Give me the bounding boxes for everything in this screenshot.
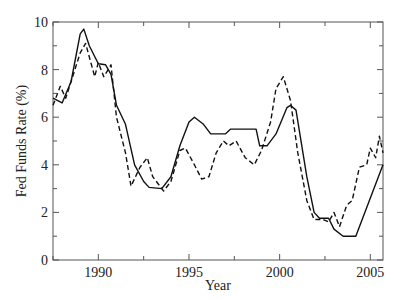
y-axis-title: Fed Funds Rate (%) xyxy=(14,84,30,197)
axis-tick-labels: 19901995200020050246810 xyxy=(34,15,384,280)
plot-frame xyxy=(53,22,383,260)
x-tick-label: 2000 xyxy=(266,265,294,280)
x-tick-label: 2005 xyxy=(356,265,384,280)
axis-ticks xyxy=(53,22,383,260)
series-layer xyxy=(53,29,383,236)
y-tick-label: 8 xyxy=(41,63,48,78)
x-tick-label: 1995 xyxy=(175,265,203,280)
series-line-actual xyxy=(53,29,383,236)
y-tick-label: 6 xyxy=(41,110,48,125)
plot-border xyxy=(53,22,383,260)
x-tick-label: 1990 xyxy=(84,265,112,280)
x-axis-title: Year xyxy=(205,278,231,293)
fed-funds-rate-chart: 19901995200020050246810 Year Fed Funds R… xyxy=(0,0,402,300)
y-tick-label: 2 xyxy=(41,205,48,220)
series-line-model xyxy=(53,43,383,226)
y-tick-label: 4 xyxy=(41,158,48,173)
y-tick-label: 10 xyxy=(34,15,48,30)
y-tick-label: 0 xyxy=(41,253,48,268)
